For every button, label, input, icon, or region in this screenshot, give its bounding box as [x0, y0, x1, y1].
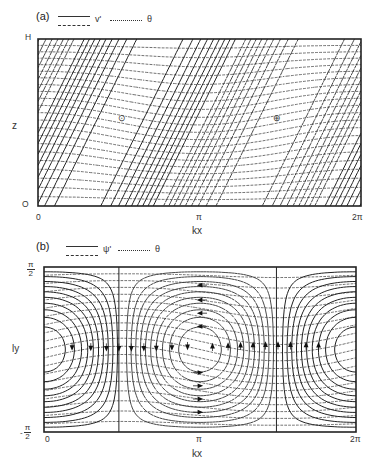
arrow-down-icon [104, 346, 109, 352]
panel-b-frame [44, 267, 356, 432]
panel-b-label: (b) [36, 240, 49, 252]
legend-b-dashed-line [66, 255, 98, 256]
arrow-down-icon [185, 345, 190, 351]
arrow-down-icon [116, 346, 121, 352]
y-tick-O: O [22, 199, 29, 209]
legend-b-solid-line [66, 246, 98, 247]
x-tick-2pi-b: 2π [350, 434, 361, 444]
y-tick-pi-over-2: π2 [27, 259, 35, 278]
arrow-down-icon [88, 346, 93, 352]
y-tick-H: H [25, 32, 31, 42]
arrow-up-icon [263, 341, 268, 347]
x-tick-pi: π [196, 212, 202, 222]
x-tick-0-b: 0 [45, 434, 50, 444]
x-axis-title-kx: kx [192, 225, 202, 236]
arrow-down-icon [70, 345, 75, 351]
x-tick-2pi: 2π [352, 212, 363, 222]
arrow-left-icon [197, 298, 203, 303]
arrow-left-icon [197, 324, 203, 329]
into-page-marker-icon: ⊕ [273, 113, 281, 123]
legend-a-v-label: v' [95, 14, 101, 24]
arrow-right-icon [198, 383, 204, 388]
arrow-up-icon [304, 342, 309, 348]
legend-b-psi-label: ψ' [103, 244, 111, 254]
legend-a-solid-line [58, 16, 90, 17]
y-axis-title-ly: ly [12, 343, 19, 354]
arrow-left-icon [197, 311, 203, 316]
arrow-down-icon [170, 345, 175, 351]
legend-b-theta-label: θ [155, 244, 160, 254]
arrow-down-icon [154, 346, 159, 352]
arrow-down-icon [129, 346, 134, 352]
arrow-up-icon [288, 341, 293, 347]
arrow-up-icon [226, 342, 231, 348]
panel-a-label: (a) [36, 10, 49, 22]
legend-a-theta-label: θ [147, 14, 152, 24]
arrow-up-icon [276, 341, 281, 347]
out-of-page-marker-icon: ⊙ [118, 113, 126, 123]
y-axis-title-z: z [12, 120, 17, 131]
arrow-right-icon [198, 410, 204, 415]
tick-bottom-sign: - [20, 428, 23, 437]
arrow-up-icon [316, 342, 321, 348]
arrow-up-icon [210, 343, 215, 349]
panel-a-frame [38, 39, 361, 206]
x-tick-0: 0 [36, 212, 41, 222]
arrow-up-icon [251, 342, 256, 348]
legend-a-dashed-line [58, 25, 90, 26]
panel-a-plot [0, 0, 373, 466]
tick-top-den: 2 [29, 270, 33, 278]
x-tick-pi-b: π [196, 434, 202, 444]
x-axis-title-kx-b: kx [192, 448, 202, 459]
arrow-down-icon [141, 346, 146, 352]
legend-a-dotted-line [110, 20, 142, 21]
arrow-right-icon [198, 370, 204, 375]
legend-b-dotted-line [118, 250, 150, 251]
arrow-up-icon [238, 342, 243, 348]
tick-bottom-den: 2 [25, 433, 29, 441]
arrow-left-icon [197, 283, 203, 288]
y-tick-neg-pi-over-2: - π2 [20, 424, 31, 441]
arrow-right-icon [198, 397, 204, 402]
